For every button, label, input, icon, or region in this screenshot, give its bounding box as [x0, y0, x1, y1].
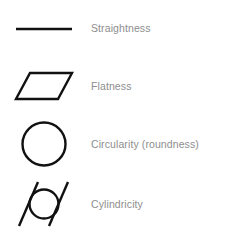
symbol-row-circularity: Circularity (roundness)	[0, 115, 226, 173]
symbol-row-straightness: Straightness	[0, 0, 226, 57]
cylindricity-icon	[16, 180, 72, 228]
symbol-cell-flatness	[0, 57, 88, 115]
symbol-label-straightness: Straightness	[88, 22, 226, 35]
symbol-label-cylindricity: Cylindricity	[88, 198, 226, 211]
symbol-cell-cylindricity	[0, 173, 88, 235]
symbol-row-cylindricity: Cylindricity	[0, 173, 226, 235]
symbol-label-flatness: Flatness	[88, 80, 226, 93]
circularity-icon	[19, 119, 69, 169]
gdt-symbol-table: Straightness Flatness Circularity (round…	[0, 0, 226, 235]
symbol-row-flatness: Flatness	[0, 57, 226, 115]
symbol-cell-circularity	[0, 115, 88, 173]
symbol-label-circularity: Circularity (roundness)	[88, 138, 226, 151]
flatness-icon	[14, 70, 74, 102]
straightness-icon	[14, 14, 74, 44]
symbol-cell-straightness	[0, 0, 88, 57]
